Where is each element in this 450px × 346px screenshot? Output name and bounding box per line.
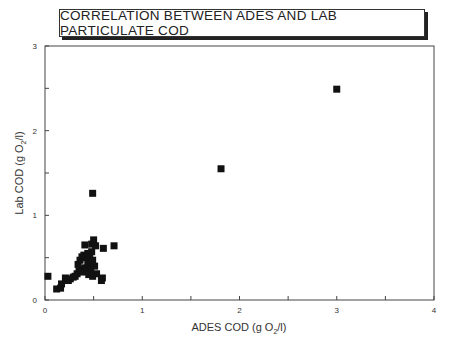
x-tick-label: 2 bbox=[237, 306, 242, 315]
data-point bbox=[98, 277, 105, 284]
y-tick-label: 2 bbox=[33, 127, 38, 136]
plot-frame bbox=[45, 46, 434, 300]
data-points bbox=[44, 86, 340, 293]
data-point bbox=[100, 245, 107, 252]
x-tick-label: 0 bbox=[43, 306, 48, 315]
data-point bbox=[89, 190, 96, 197]
data-point bbox=[92, 242, 99, 249]
x-tick-label: 1 bbox=[140, 306, 145, 315]
y-tick-label: 3 bbox=[33, 42, 38, 51]
y-axis-label: Lab COD (g O2/l) bbox=[13, 131, 27, 214]
data-point bbox=[44, 273, 51, 280]
y-tick-label: 1 bbox=[33, 211, 38, 220]
scatter-plot: 012340123 ADES COD (g O2/l) Lab COD (g O… bbox=[0, 0, 450, 346]
data-point bbox=[111, 242, 118, 249]
data-point bbox=[81, 241, 88, 248]
x-axis-label: ADES COD (g O2/l) bbox=[192, 321, 287, 335]
x-tick-label: 3 bbox=[335, 306, 340, 315]
x-tick-label: 4 bbox=[432, 306, 437, 315]
data-point bbox=[333, 86, 340, 93]
y-tick-label: 0 bbox=[33, 296, 38, 305]
data-point bbox=[218, 165, 225, 172]
